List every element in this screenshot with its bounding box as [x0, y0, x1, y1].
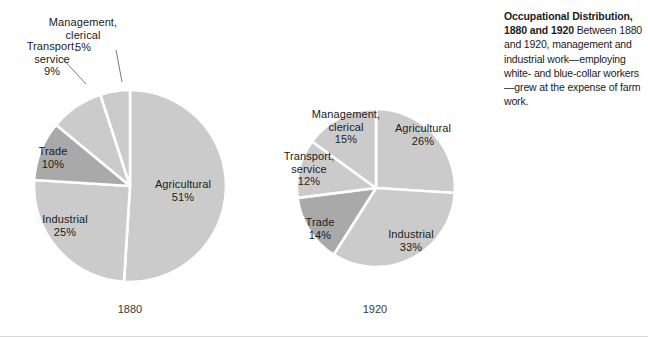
slice-label-transport-service-1920: Transport, service 12%: [269, 150, 349, 188]
figure-caption: Occupational Distribution, 1880 and 1920…: [504, 9, 644, 108]
slice-label-trade-1880: Trade 10%: [23, 145, 83, 170]
slice-label-transport-service-1880: Transport, service 9%: [4, 40, 100, 78]
year-label-1920: 1920: [345, 303, 405, 316]
slice-label-trade-1920: Trade 14%: [293, 216, 347, 241]
pie-charts-area: Management, clerical 5% Transport, servi…: [0, 0, 500, 337]
slice-label-industrial-1880: Industrial 25%: [30, 213, 100, 238]
figure-occupational-distribution: Management, clerical 5% Transport, servi…: [0, 0, 648, 337]
slice-label-agricultural-1920: Agricultural 26%: [385, 122, 461, 147]
slice-label-industrial-1920: Industrial 33%: [376, 228, 446, 253]
year-label-1880: 1880: [100, 303, 160, 316]
slice-label-management-clerical-1920: Management, clerical 15%: [300, 108, 392, 146]
caption-body: Between 1880 and 1920, management and in…: [504, 24, 642, 107]
slice-label-agricultural-1880: Agricultural 51%: [140, 178, 226, 203]
leader-line-management-1880: [116, 50, 122, 82]
